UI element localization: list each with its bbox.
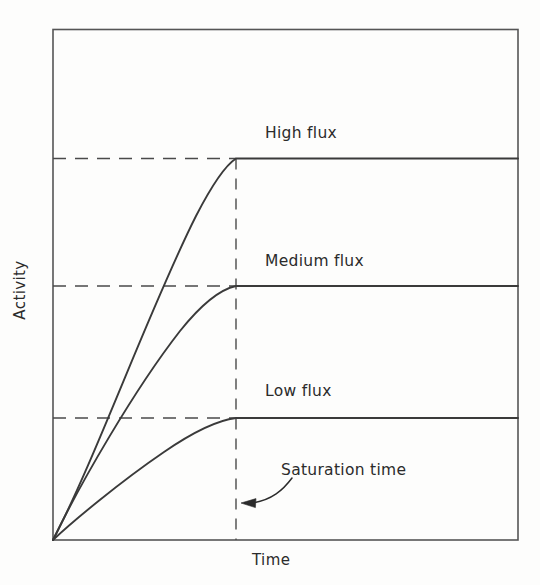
saturation-time-label: Saturation time — [281, 461, 406, 479]
high-flux-label: High flux — [265, 124, 337, 142]
saturation-activity-chart — [0, 0, 540, 585]
saturation-time-arrowhead — [241, 499, 256, 508]
x-axis-label: Time — [252, 551, 290, 569]
saturation-time-arrow — [252, 478, 292, 503]
y-axis-label: Activity — [10, 245, 30, 335]
low-flux-curve — [53, 418, 518, 540]
medium-flux-label: Medium flux — [265, 252, 364, 270]
low-flux-label: Low flux — [265, 382, 332, 400]
medium-flux-curve — [53, 286, 518, 540]
